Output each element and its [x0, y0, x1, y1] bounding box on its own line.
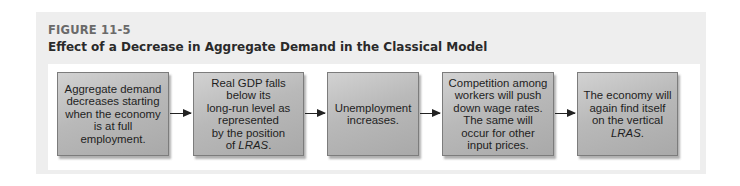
step-1-line: Aggregate demand	[61, 83, 165, 96]
step-4-line: The same will	[449, 114, 548, 127]
step-4-line: workers will push	[449, 89, 548, 102]
arrow-right-icon	[170, 113, 191, 114]
arrow-right-icon	[305, 113, 325, 114]
step-2-line: by the position	[207, 127, 291, 140]
step-4-line: Competition among	[449, 77, 548, 90]
step-3-line: increases.	[335, 114, 412, 127]
step-5-line: on the vertical	[584, 114, 672, 127]
step-4-line: input prices.	[449, 139, 548, 152]
step-5-line: The economy will	[584, 89, 672, 102]
step-3-line: Unemployment	[335, 102, 412, 115]
flow-step-2: Real GDP falls below its long-run level …	[193, 72, 304, 156]
step-2-line: Real GDP falls	[207, 77, 291, 90]
flow-step-1: Aggregate demand decreases starting when…	[57, 72, 169, 156]
flow-step-4: Competition among workers will push down…	[442, 72, 554, 156]
step-5-suffix: .	[641, 127, 644, 139]
lras-term: LRAS	[611, 127, 641, 139]
step-2-line: represented	[207, 114, 291, 127]
step-2-suffix: .	[268, 139, 271, 151]
step-4-line: occur for other	[449, 127, 548, 140]
lras-term: LRAS	[238, 139, 268, 151]
figure-title: Effect of a Decrease in Aggregate Demand…	[48, 40, 487, 54]
step-2-line: below its	[207, 89, 291, 102]
step-1-line: is at full employment.	[61, 120, 165, 145]
step-2-last-line: of LRAS.	[207, 139, 291, 152]
step-2-line: long-run level as	[207, 102, 291, 115]
step-5-line: again find itself	[584, 102, 672, 115]
flow-step-3: Unemployment increases.	[327, 72, 419, 156]
arrow-right-icon	[420, 113, 440, 114]
arrow-right-icon	[555, 113, 575, 114]
step-1-line: decreases starting	[61, 95, 165, 108]
step-4-line: down wage rates.	[449, 102, 548, 115]
step-1-line: when the economy	[61, 108, 165, 121]
flow-step-5: The economy will again find itself on th…	[577, 72, 678, 156]
figure-label: FIGURE 11-5	[48, 23, 131, 37]
step-5-last-line: LRAS.	[584, 127, 672, 140]
step-2-prefix: of	[226, 139, 239, 151]
